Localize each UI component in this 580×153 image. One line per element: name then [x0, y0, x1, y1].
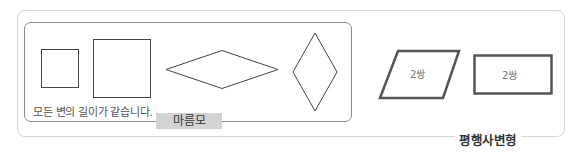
tall-rhombus-shape: [293, 33, 337, 111]
rhombus-label-badge: 마름모: [156, 113, 222, 129]
parallelogram-pair-label: 2쌍: [410, 66, 424, 81]
parallelogram-label: 평행사변형: [455, 130, 521, 149]
rhombus-caption: 모든 변의 길이가 같습니다.: [33, 103, 153, 119]
small-square-shape: [42, 50, 79, 88]
rectangle-pair-label: 2쌍: [502, 67, 516, 82]
wide-rhombus-shape: [166, 51, 278, 89]
large-square-shape: [94, 40, 151, 98]
